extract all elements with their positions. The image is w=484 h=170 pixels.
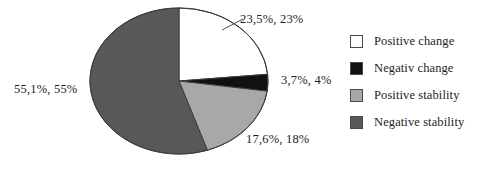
legend-item-positive-change: Positive change bbox=[350, 28, 484, 55]
legend-label-positive-stability: Positive stability bbox=[374, 88, 460, 103]
slice-label-negativ-change: 3,7%, 4% bbox=[281, 73, 332, 88]
legend-label-positive-change: Positive change bbox=[374, 34, 454, 49]
legend-item-negative-stability: Negative stability bbox=[350, 109, 484, 136]
legend-label-negative-stability: Negative stability bbox=[374, 115, 464, 130]
legend-item-positive-stability: Positive stability bbox=[350, 82, 484, 109]
slice-label-positive-stability: 17,6%, 18% bbox=[246, 132, 309, 147]
pie-chart-figure: 23,5%, 23% 3,7%, 4% 17,6%, 18% 55,1%, 55… bbox=[0, 0, 484, 170]
slice-label-positive-change: 23,5%, 23% bbox=[240, 12, 303, 27]
chart-legend: Positive change Negativ change Positive … bbox=[350, 28, 484, 136]
legend-swatch-positive-change bbox=[350, 35, 363, 48]
legend-label-negativ-change: Negativ change bbox=[374, 61, 454, 76]
slice-label-negative-stability: 55,1%, 55% bbox=[14, 82, 77, 97]
legend-swatch-positive-stability bbox=[350, 89, 363, 102]
pie-slices-group bbox=[90, 8, 268, 154]
legend-item-negativ-change: Negativ change bbox=[350, 55, 484, 82]
legend-swatch-negativ-change bbox=[350, 62, 363, 75]
legend-swatch-negative-stability bbox=[350, 116, 363, 129]
chart-plot-area: 23,5%, 23% 3,7%, 4% 17,6%, 18% 55,1%, 55… bbox=[0, 0, 340, 170]
